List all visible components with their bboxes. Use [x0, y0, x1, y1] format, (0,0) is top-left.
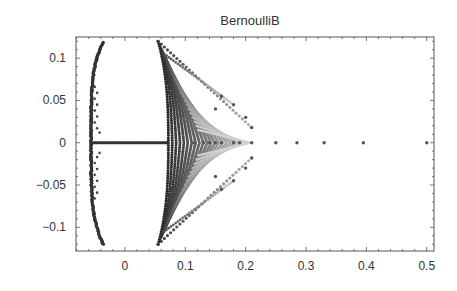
- data-point: [223, 97, 226, 100]
- data-point: [93, 185, 96, 188]
- data-point: [244, 162, 247, 165]
- data-point: [168, 65, 171, 68]
- data-point: [194, 120, 196, 122]
- data-point: [232, 141, 235, 144]
- data-point: [207, 85, 210, 88]
- data-point: [181, 66, 184, 69]
- data-point: [228, 183, 231, 186]
- data-point: [225, 184, 228, 187]
- data-point: [186, 103, 188, 105]
- data-point: [181, 217, 184, 220]
- y-tick-label: 0.05: [43, 93, 67, 107]
- data-point: [228, 176, 231, 179]
- data-point: [192, 116, 194, 118]
- data-point: [208, 141, 211, 144]
- data-point: [234, 171, 237, 174]
- data-point: [186, 213, 189, 216]
- data-point: [93, 121, 96, 124]
- data-point: [174, 222, 177, 225]
- data-point: [172, 59, 175, 62]
- data-point: [160, 48, 163, 51]
- data-point: [98, 152, 101, 155]
- data-point: [178, 60, 181, 63]
- data-point: [93, 174, 96, 177]
- data-point: [209, 196, 212, 199]
- data-point: [228, 106, 231, 109]
- data-point: [244, 166, 247, 169]
- data-point: [193, 75, 196, 78]
- data-point: [241, 165, 244, 168]
- data-point: [160, 240, 163, 243]
- data-point: [177, 220, 180, 223]
- data-point: [232, 179, 235, 182]
- data-point: [96, 127, 99, 130]
- x-tick-label: 0: [122, 259, 129, 273]
- data-point: [96, 156, 99, 159]
- data-point: [165, 93, 168, 96]
- x-tick-label: 0.3: [298, 259, 315, 273]
- data-point: [202, 201, 205, 204]
- data-point: [202, 141, 205, 144]
- data-point: [202, 81, 205, 84]
- data-point: [193, 208, 196, 211]
- data-point: [250, 126, 253, 129]
- data-point: [96, 103, 99, 106]
- y-tick-label: 0.1: [49, 51, 66, 65]
- data-point: [247, 123, 250, 126]
- data-point: [216, 91, 219, 94]
- data-point: [211, 88, 214, 91]
- data-point: [180, 90, 183, 93]
- data-point: [182, 95, 184, 97]
- data-point: [204, 83, 207, 86]
- data-point: [200, 80, 203, 83]
- data-point: [175, 225, 178, 228]
- data-point: [222, 100, 225, 103]
- data-point: [188, 212, 191, 215]
- data-point: [197, 129, 199, 131]
- data-point: [163, 230, 166, 233]
- data-point: [204, 200, 207, 203]
- y-tick-label: −0.1: [42, 220, 66, 234]
- data-point: [220, 141, 223, 144]
- data-point: [163, 53, 166, 56]
- data-point: [184, 68, 187, 71]
- data-point: [160, 43, 163, 46]
- data-point: [96, 191, 99, 194]
- data-point: [98, 131, 101, 134]
- data-point: [191, 73, 194, 76]
- data-point: [225, 179, 228, 182]
- data-point: [195, 206, 198, 209]
- data-point: [362, 141, 365, 144]
- data-point: [188, 71, 191, 74]
- data-point: [195, 125, 197, 127]
- chart-title: BernoulliB: [220, 13, 279, 28]
- data-point: [163, 237, 166, 240]
- y-tick-label: −0.05: [36, 178, 67, 192]
- data-point: [165, 228, 168, 231]
- data-point: [172, 54, 175, 57]
- data-point: [167, 56, 170, 59]
- data-point: [244, 120, 247, 123]
- data-point: [178, 223, 181, 226]
- data-point: [214, 193, 217, 196]
- data-point: [250, 156, 253, 159]
- data-point: [179, 64, 182, 67]
- data-point: [238, 114, 241, 117]
- data-point: [425, 141, 428, 144]
- data-point: [184, 215, 187, 218]
- data-point: [207, 198, 210, 201]
- data-point: [96, 168, 99, 171]
- data-point: [181, 63, 184, 66]
- data-point: [200, 203, 203, 206]
- data-point: [247, 159, 250, 162]
- data-point: [197, 78, 200, 81]
- data-point: [170, 69, 173, 72]
- data-point: [223, 186, 226, 189]
- data-point: [165, 54, 168, 57]
- data-point: [234, 112, 237, 115]
- data-point: [96, 92, 99, 95]
- data-point: [177, 63, 180, 66]
- data-point: [228, 100, 231, 103]
- data-point: [167, 227, 170, 230]
- data-point: [178, 86, 181, 89]
